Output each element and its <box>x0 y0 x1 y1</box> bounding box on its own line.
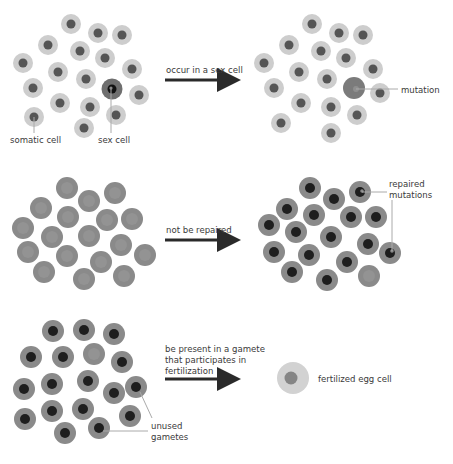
repaired-mutations-label-line2: mutations <box>389 189 432 200</box>
cluster-gametes <box>13 319 152 444</box>
fertilized-egg-cell <box>277 362 309 394</box>
arrow-3-label-line1: be present in a gamete <box>165 343 265 354</box>
arrow-3-label-line3: fertilization <box>165 365 213 376</box>
sex-cell-label: sex cell <box>98 134 130 145</box>
fertilized-egg-label: fertilized egg cell <box>318 373 392 384</box>
arrow-2-label: not be repaired <box>166 224 232 235</box>
mutation-label: mutation <box>401 84 440 95</box>
unused-gametes-label-line2: gametes <box>151 431 188 442</box>
arrow-3-label-line2: that participates in <box>165 354 246 365</box>
mutation-cell <box>343 77 365 99</box>
cluster-with-mutation <box>254 14 398 143</box>
cluster-dark-cells <box>12 177 156 290</box>
cluster-somatic-cells <box>13 14 149 138</box>
unused-gametes-label-line1: unused <box>151 420 182 431</box>
sex-cell <box>102 79 123 100</box>
somatic-cell-label: somatic cell <box>10 134 61 145</box>
repaired-mutation-cell <box>385 248 395 258</box>
mutation-diagram: somatic cell sex cell occur in a sex cel… <box>0 0 453 464</box>
cluster-unrepaired <box>258 177 401 291</box>
arrow-1-label: occur in a sex cell <box>166 64 243 75</box>
repaired-mutations-label-line1: repaired <box>389 178 425 189</box>
